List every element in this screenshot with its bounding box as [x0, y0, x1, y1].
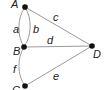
edge-label-b: b — [33, 23, 39, 35]
edge-label-a: a — [13, 23, 19, 35]
edge-label-d: d — [47, 34, 54, 46]
node-b — [21, 44, 27, 50]
edge-d — [24, 46, 92, 47]
edge-label-c: c — [53, 11, 59, 23]
node-a — [22, 4, 28, 10]
edge-b — [24, 7, 30, 47]
edge-label-e: e — [53, 70, 59, 82]
node-label-c: C — [12, 84, 20, 90]
node-label-d: D — [93, 48, 101, 60]
node-label-a: A — [10, 0, 18, 10]
graph-diagram: A B C D a b c d e f — [0, 0, 105, 90]
edge-label-f: f — [13, 63, 17, 75]
node-label-b: B — [13, 45, 20, 57]
edge-a — [19, 7, 25, 47]
node-c — [22, 83, 28, 89]
